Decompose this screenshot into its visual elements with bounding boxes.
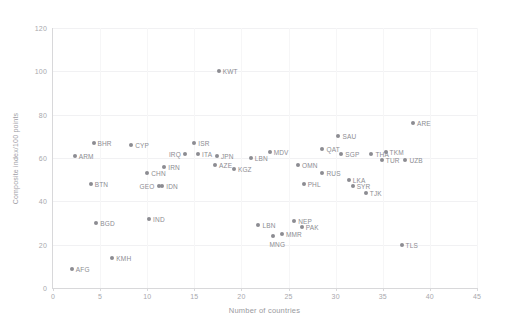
data-point[interactable]	[280, 232, 284, 236]
x-axis-tick-label: 30	[332, 293, 340, 300]
data-point[interactable]	[129, 143, 133, 147]
data-point[interactable]	[249, 156, 253, 160]
data-point[interactable]	[320, 147, 324, 151]
x-axis-tick-label: 15	[190, 293, 198, 300]
gridline-vertical	[430, 28, 431, 288]
data-point-label: SGP	[345, 150, 359, 157]
data-point-label: IDN	[166, 183, 178, 190]
x-axis-tick-mark	[430, 288, 431, 291]
x-axis-tick-mark	[147, 288, 148, 291]
data-point[interactable]	[213, 163, 217, 167]
data-point[interactable]	[336, 134, 340, 138]
data-point-label: BTN	[95, 181, 108, 188]
x-axis-tick-mark	[241, 288, 242, 291]
data-point[interactable]	[351, 184, 355, 188]
x-axis-tick-label: 35	[379, 293, 387, 300]
data-point[interactable]	[411, 121, 415, 125]
data-point[interactable]	[380, 158, 384, 162]
y-axis-tick-label: 120	[35, 25, 47, 32]
data-point[interactable]	[232, 167, 236, 171]
data-point-label: OMN	[302, 161, 318, 168]
data-point[interactable]	[384, 150, 388, 154]
gridline-vertical	[241, 28, 242, 288]
data-point-label: KGZ	[238, 165, 252, 172]
x-axis-tick-mark	[383, 288, 384, 291]
x-axis-tick-mark	[477, 288, 478, 291]
data-point-label: ISR	[198, 139, 209, 146]
x-axis-tick-mark	[53, 288, 54, 291]
data-point-label: KWT	[223, 68, 238, 75]
data-point[interactable]	[196, 152, 200, 156]
data-point[interactable]	[271, 234, 275, 238]
data-point[interactable]	[403, 158, 407, 162]
data-point[interactable]	[160, 184, 164, 188]
gridline-vertical	[477, 28, 478, 288]
gridline-horizontal	[53, 201, 477, 202]
data-point-label: LBN	[262, 222, 275, 229]
data-point-label: TKM	[390, 148, 404, 155]
data-point-label: BGD	[100, 220, 115, 227]
data-point[interactable]	[162, 165, 166, 169]
y-axis-tick-label: 80	[39, 111, 47, 118]
data-point-label: QAT	[326, 146, 339, 153]
gridline-vertical	[289, 28, 290, 288]
x-axis-tick-label: 25	[284, 293, 292, 300]
data-point-label: BHR	[98, 139, 112, 146]
data-point[interactable]	[400, 243, 404, 247]
data-point[interactable]	[339, 152, 343, 156]
data-point[interactable]	[192, 141, 196, 145]
data-point[interactable]	[183, 152, 187, 156]
data-point[interactable]	[347, 178, 351, 182]
data-point-label: PHL	[308, 181, 321, 188]
data-point-label: ARE	[417, 120, 431, 127]
data-point[interactable]	[300, 225, 304, 229]
data-point[interactable]	[369, 152, 373, 156]
gridline-horizontal	[53, 115, 477, 116]
y-axis-tick-label: 20	[39, 241, 47, 248]
data-point[interactable]	[147, 217, 151, 221]
y-axis-tick-label: 0	[43, 285, 47, 292]
data-point[interactable]	[70, 267, 74, 271]
data-point[interactable]	[256, 223, 260, 227]
data-point[interactable]	[73, 154, 77, 158]
scatter-chart: Composite index/100 points 0204060801001…	[0, 0, 509, 333]
data-point[interactable]	[94, 221, 98, 225]
data-point-label: SYR	[357, 183, 371, 190]
data-point[interactable]	[320, 171, 324, 175]
gridline-vertical	[100, 28, 101, 288]
data-point-label: SAU	[342, 133, 356, 140]
x-axis-tick-label: 5	[98, 293, 102, 300]
data-point-label: AFG	[76, 265, 90, 272]
data-point[interactable]	[217, 69, 221, 73]
data-point[interactable]	[89, 182, 93, 186]
gridline-vertical	[194, 28, 195, 288]
data-point[interactable]	[145, 171, 149, 175]
data-point-label: LBN	[255, 155, 268, 162]
gridline-vertical	[336, 28, 337, 288]
x-axis-title: Number of countries	[52, 306, 477, 315]
data-point-label: MDV	[274, 148, 289, 155]
data-point[interactable]	[296, 163, 300, 167]
data-point[interactable]	[364, 191, 368, 195]
data-point-label: IRQ	[169, 150, 181, 157]
y-axis-title: Composite index/100 points	[10, 28, 22, 289]
data-point-label: AZE	[219, 161, 232, 168]
data-point[interactable]	[92, 141, 96, 145]
x-axis-tick-label: 45	[473, 293, 481, 300]
x-axis-tick-mark	[194, 288, 195, 291]
plot-area: 020406080100120051015202530354045AFGARMB…	[52, 28, 477, 289]
data-point[interactable]	[292, 219, 296, 223]
x-axis-tick-mark	[289, 288, 290, 291]
data-point-label: GEO	[140, 183, 155, 190]
data-point[interactable]	[302, 182, 306, 186]
data-point-label: MMR	[286, 230, 302, 237]
x-axis-tick-mark	[100, 288, 101, 291]
data-point-label: UZB	[409, 157, 422, 164]
data-point-label: TJK	[370, 189, 382, 196]
data-point-label: CHN	[151, 170, 166, 177]
data-point[interactable]	[268, 150, 272, 154]
x-axis-tick-mark	[336, 288, 337, 291]
data-point[interactable]	[110, 256, 114, 260]
data-point[interactable]	[215, 154, 219, 158]
gridline-horizontal	[53, 28, 477, 29]
